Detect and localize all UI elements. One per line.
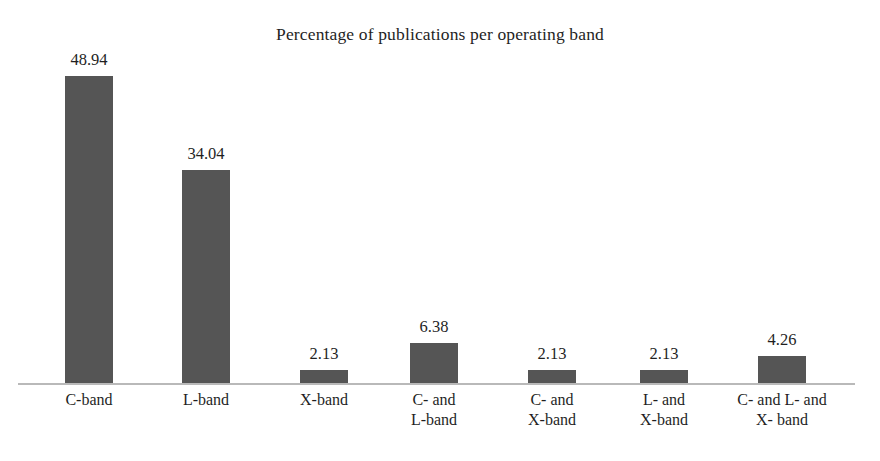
x-axis-line bbox=[18, 383, 855, 385]
bar bbox=[758, 356, 806, 383]
bar-value-label: 4.26 bbox=[736, 332, 828, 349]
bar-value-label: 2.13 bbox=[278, 346, 370, 363]
plot-area: 48.9434.042.136.382.132.134.26 C-bandL-b… bbox=[0, 0, 880, 461]
bar bbox=[65, 76, 113, 383]
bar-value-label: 6.38 bbox=[388, 319, 480, 336]
bar-value-label: 34.04 bbox=[160, 146, 252, 163]
bar-value-label: 2.13 bbox=[506, 346, 598, 363]
bar bbox=[410, 343, 458, 383]
bar bbox=[528, 370, 576, 383]
bar bbox=[182, 170, 230, 383]
bar bbox=[300, 370, 348, 383]
bar-value-label: 48.94 bbox=[43, 52, 135, 69]
bar-value-label: 2.13 bbox=[618, 346, 710, 363]
bar bbox=[640, 370, 688, 383]
x-axis-category-label: C- and L- and X- band bbox=[712, 390, 852, 430]
bar-chart: Percentage of publications per operating… bbox=[0, 0, 880, 461]
